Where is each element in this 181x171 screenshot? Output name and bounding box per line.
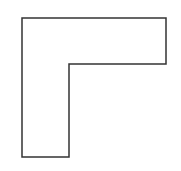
l-shape-diagram: [0, 0, 181, 171]
l-shape-outline: [22, 18, 166, 157]
diagram-canvas: [0, 0, 181, 171]
